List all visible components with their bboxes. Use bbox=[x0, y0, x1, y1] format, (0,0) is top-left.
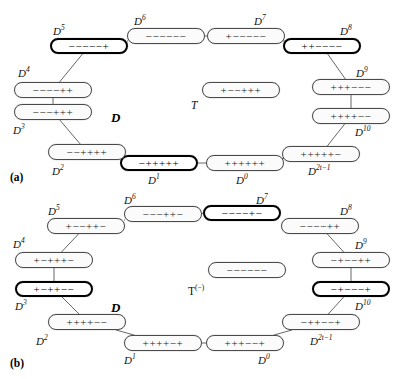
graph-node-d8: ++−−−− bbox=[283, 38, 361, 54]
node-label-d4: D4 bbox=[13, 239, 25, 250]
graph-edge bbox=[328, 54, 346, 79]
graph-node-d4: +−+++− bbox=[15, 252, 93, 268]
node-sign-sequence: −−++++ bbox=[67, 146, 108, 157]
node-label-d1: D1 bbox=[148, 175, 160, 186]
graph-edge bbox=[60, 54, 83, 82]
region-label-d: D bbox=[111, 110, 120, 126]
node-sign-sequence: ++−−−− bbox=[302, 40, 343, 51]
node-label-d2t: D2t−1 bbox=[308, 166, 331, 177]
node-label-d2t: D2t−1 bbox=[310, 336, 333, 347]
graph-node-d9: +++−−− bbox=[312, 79, 390, 95]
node-sign-sequence: −++−−+ bbox=[301, 316, 342, 327]
graph-node-d8: −−−−++ bbox=[281, 218, 359, 234]
node-sign-sequence: −−−+++ bbox=[33, 106, 74, 117]
node-sign-sequence: +++−−+ bbox=[225, 337, 266, 348]
graph-node-d5: −−−−−+ bbox=[50, 38, 128, 54]
node-sign-sequence: −−−−+− bbox=[222, 207, 263, 218]
graph-node-t: +−−+++ bbox=[202, 82, 280, 98]
node-sign-sequence: −−−−−− bbox=[227, 264, 268, 275]
node-label-d8: D8 bbox=[340, 206, 352, 217]
node-label-d2: D2 bbox=[36, 336, 48, 347]
node-label-d3: D3 bbox=[15, 301, 27, 312]
node-label-d10: D10 bbox=[355, 301, 370, 312]
node-label-d9: D9 bbox=[355, 240, 367, 251]
node-label-d4: D4 bbox=[18, 68, 30, 79]
graph-node-d2: ++++−− bbox=[48, 314, 126, 330]
graph-node-d10: ++++−− bbox=[312, 108, 390, 124]
node-label-d3: D3 bbox=[13, 125, 25, 136]
node-sign-sequence: +−−−−− bbox=[226, 30, 267, 41]
node-sign-sequence: −−−−++ bbox=[33, 84, 74, 95]
node-sign-sequence: −−−−−+ bbox=[69, 40, 110, 51]
node-sign-sequence: ++++−− bbox=[67, 316, 108, 327]
panel-tag: (b) bbox=[10, 358, 24, 370]
node-label-d7: D7 bbox=[256, 195, 268, 206]
node-sign-sequence: +++++− bbox=[301, 148, 342, 159]
figure-panel-a: ++++++D0−+++++D1−−++++D2−−−+++D3−−−−++D4… bbox=[0, 0, 397, 190]
node-sign-sequence: ++++++ bbox=[225, 157, 266, 168]
graph-edge bbox=[62, 234, 79, 252]
node-label-d0: D0 bbox=[258, 355, 270, 366]
graph-node-d10: −+−−−+ bbox=[312, 281, 390, 297]
node-label-d8: D8 bbox=[340, 26, 352, 37]
node-label-t: T(−) bbox=[188, 286, 204, 298]
graph-node-d0: ++++++ bbox=[206, 155, 284, 171]
figure-panel-b: +++−−+D0++++−+D1++++−−D2+−++−−D3+−+++−D4… bbox=[0, 190, 397, 379]
node-sign-sequence: −+−−−+ bbox=[331, 283, 372, 294]
graph-node-d0: +++−−+ bbox=[206, 335, 284, 351]
node-sign-sequence: −−−−++ bbox=[300, 220, 341, 231]
graph-node-d2t: −++−−+ bbox=[282, 314, 360, 330]
node-sign-sequence: +−++−− bbox=[34, 283, 75, 294]
graph-node-t: −−−−−− bbox=[208, 262, 286, 278]
graph-node-d2t: +++++− bbox=[282, 146, 360, 162]
graph-node-d7: +−−−−− bbox=[207, 28, 285, 44]
graph-node-d2: −−++++ bbox=[48, 144, 126, 160]
panel-tag: (a) bbox=[10, 172, 23, 184]
node-label-d0: D0 bbox=[236, 175, 248, 186]
node-sign-sequence: −+−−++ bbox=[331, 254, 372, 265]
node-label-d7: D7 bbox=[254, 16, 266, 27]
node-label-d1: D1 bbox=[124, 355, 136, 366]
node-label-d2: D2 bbox=[52, 166, 64, 177]
node-label-d6: D6 bbox=[134, 16, 146, 27]
node-sign-sequence: −−−++− bbox=[143, 208, 184, 219]
graph-edge bbox=[327, 234, 343, 252]
node-sign-sequence: +−−+++ bbox=[221, 84, 262, 95]
graph-node-d9: −+−−++ bbox=[312, 252, 390, 268]
node-label-d5: D5 bbox=[53, 26, 65, 37]
node-label-d5: D5 bbox=[48, 206, 60, 217]
graph-edge bbox=[60, 120, 80, 144]
graph-node-d6: −−−−−− bbox=[127, 28, 205, 44]
graph-edge bbox=[62, 297, 79, 314]
region-label-d: D bbox=[111, 300, 120, 316]
node-sign-sequence: +++−−− bbox=[331, 81, 372, 92]
node-sign-sequence: ++++−− bbox=[331, 110, 372, 121]
node-label-t: T bbox=[191, 100, 197, 112]
node-label-d6: D6 bbox=[124, 195, 136, 206]
graph-edge bbox=[328, 297, 343, 314]
node-sign-sequence: +−−++− bbox=[66, 220, 107, 231]
node-sign-sequence: −−−−−− bbox=[146, 30, 187, 41]
node-sign-sequence: −+++++ bbox=[139, 157, 180, 168]
graph-node-d7: −−−−+− bbox=[203, 205, 281, 221]
graph-node-d4: −−−−++ bbox=[14, 82, 92, 98]
graph-node-d1: ++++−+ bbox=[124, 335, 202, 351]
graph-node-d3: −−−+++ bbox=[14, 104, 92, 120]
graph-node-d3: +−++−− bbox=[15, 281, 93, 297]
node-sign-sequence: ++++−+ bbox=[143, 337, 184, 348]
node-sign-sequence: +−+++− bbox=[34, 254, 75, 265]
graph-node-d6: −−−++− bbox=[124, 206, 202, 222]
graph-node-d1: −+++++ bbox=[120, 155, 198, 171]
graph-edge bbox=[327, 124, 344, 146]
node-label-d10: D10 bbox=[355, 127, 370, 138]
node-label-d9: D9 bbox=[356, 68, 368, 79]
graph-node-d5: +−−++− bbox=[47, 218, 125, 234]
